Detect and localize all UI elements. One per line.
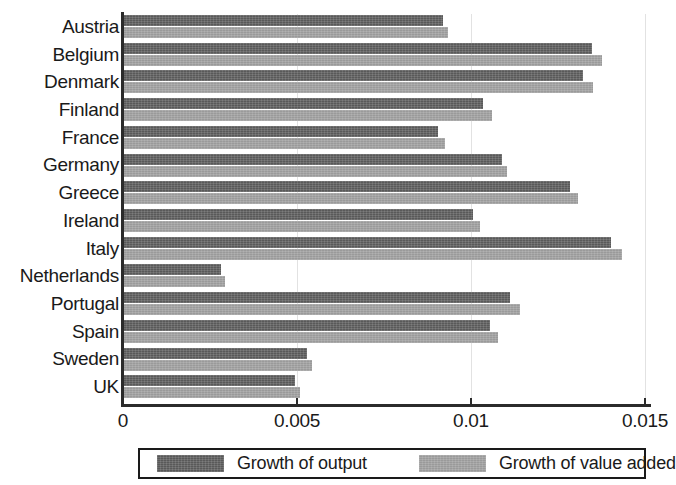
bar-growth-of-value-added — [123, 276, 225, 287]
bar-row — [123, 291, 663, 319]
bar-growth-of-output — [123, 98, 483, 109]
bar-growth-of-value-added — [123, 138, 445, 149]
x-axis-tick — [122, 398, 124, 406]
plot-area — [123, 14, 663, 402]
bar-growth-of-value-added — [123, 304, 520, 315]
bar-row — [123, 69, 663, 97]
bar-growth-of-value-added — [123, 360, 312, 371]
x-axis-tick — [644, 398, 646, 406]
bar-growth-of-value-added — [123, 166, 507, 177]
bar-row — [123, 125, 663, 153]
y-axis-label-france: France — [1, 127, 119, 149]
chart-legend: Growth of output Growth of value added — [138, 448, 646, 479]
bar-row — [123, 319, 663, 347]
bar-row — [123, 153, 663, 181]
y-axis-label-germany: Germany — [1, 154, 119, 176]
bar-growth-of-value-added — [123, 193, 578, 204]
bar-row — [123, 42, 663, 70]
y-axis-line — [121, 12, 124, 404]
bar-row — [123, 180, 663, 208]
legend-entry-growth-of-value-added: Growth of value added — [419, 453, 676, 474]
bar-growth-of-output — [123, 154, 502, 165]
x-axis-tick — [296, 398, 298, 406]
bar-growth-of-output — [123, 375, 295, 386]
y-axis-label-ireland: Ireland — [1, 210, 119, 232]
x-axis-tick-label: 0 — [118, 410, 128, 432]
bar-growth-of-output — [123, 181, 570, 192]
y-axis-label-belgium: Belgium — [1, 44, 119, 66]
bar-growth-of-value-added — [123, 27, 448, 38]
bar-row — [123, 208, 663, 236]
bar-row — [123, 97, 663, 125]
y-axis-label-netherlands: Netherlands — [1, 265, 119, 287]
legend-swatch-icon-value-added — [419, 455, 486, 472]
bar-growth-of-output — [123, 126, 438, 137]
legend-label-value-added: Growth of value added — [499, 453, 676, 474]
bar-growth-of-output — [123, 264, 221, 275]
x-axis-tick — [470, 398, 472, 406]
y-axis-label-denmark: Denmark — [1, 71, 119, 93]
legend-entry-growth-of-output: Growth of output — [157, 453, 367, 474]
bar-row — [123, 236, 663, 264]
bar-row — [123, 374, 663, 402]
bar-growth-of-value-added — [123, 55, 602, 66]
bar-growth-of-value-added — [123, 110, 492, 121]
legend-label-output: Growth of output — [237, 453, 367, 474]
y-axis-label-greece: Greece — [1, 182, 119, 204]
x-axis-tick-label: 0.005 — [274, 410, 320, 432]
bar-growth-of-output — [123, 237, 611, 248]
bar-row — [123, 14, 663, 42]
bar-growth-of-output — [123, 70, 583, 81]
x-axis-tick-label: 0.015 — [622, 410, 668, 432]
bar-growth-of-output — [123, 43, 592, 54]
bar-growth-of-output — [123, 348, 307, 359]
bar-growth-of-value-added — [123, 387, 300, 398]
bar-growth-of-output — [123, 209, 473, 220]
y-axis-label-spain: Spain — [1, 321, 119, 343]
y-axis-label-finland: Finland — [1, 99, 119, 121]
bar-growth-of-value-added — [123, 249, 622, 260]
bar-growth-of-output — [123, 292, 510, 303]
bar-growth-of-output — [123, 320, 490, 331]
y-axis-label-austria: Austria — [1, 16, 119, 38]
legend-swatch-icon-output — [157, 455, 224, 472]
bar-growth-of-value-added — [123, 221, 480, 232]
x-axis-tick-label: 0.01 — [453, 410, 489, 432]
y-axis-label-uk: UK — [1, 376, 119, 398]
y-axis-category-labels: AustriaBelgiumDenmarkFinlandFranceGerman… — [0, 14, 119, 402]
bar-row — [123, 347, 663, 375]
bar-growth-of-value-added — [123, 332, 498, 343]
bar-row — [123, 263, 663, 291]
y-axis-label-sweden: Sweden — [1, 348, 119, 370]
y-axis-label-portugal: Portugal — [1, 293, 119, 315]
y-axis-label-italy: Italy — [1, 238, 119, 260]
x-axis-line — [121, 404, 651, 407]
bar-growth-of-output — [123, 15, 443, 26]
bar-growth-of-value-added — [123, 82, 593, 93]
